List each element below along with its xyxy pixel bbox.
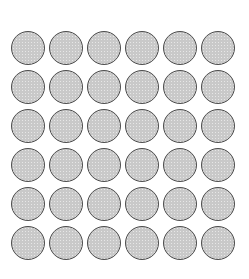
circle-marker — [49, 187, 83, 221]
circle-marker — [49, 226, 83, 260]
circle-marker — [201, 70, 235, 104]
circle-grid — [0, 0, 249, 279]
circle-marker — [125, 148, 159, 182]
circle-marker — [49, 148, 83, 182]
circle-marker — [11, 31, 45, 65]
circle-marker — [87, 148, 121, 182]
circle-marker — [125, 109, 159, 143]
circle-marker — [49, 109, 83, 143]
circle-marker — [87, 31, 121, 65]
circle-marker — [201, 31, 235, 65]
circle-marker — [125, 187, 159, 221]
circle-marker — [163, 187, 197, 221]
circle-marker — [87, 226, 121, 260]
circle-marker — [125, 31, 159, 65]
circle-marker — [163, 109, 197, 143]
circle-marker — [163, 31, 197, 65]
circle-marker — [201, 187, 235, 221]
circle-marker — [125, 226, 159, 260]
circle-marker — [49, 70, 83, 104]
circle-marker — [87, 109, 121, 143]
circle-marker — [11, 70, 45, 104]
circle-marker — [163, 148, 197, 182]
circle-marker — [87, 187, 121, 221]
circle-marker — [201, 109, 235, 143]
circle-marker — [201, 148, 235, 182]
circle-marker — [11, 148, 45, 182]
circle-marker — [11, 187, 45, 221]
circle-marker — [201, 226, 235, 260]
circle-marker — [11, 109, 45, 143]
image-canvas — [0, 0, 249, 279]
circle-marker — [163, 70, 197, 104]
circle-marker — [125, 70, 159, 104]
circle-marker — [11, 226, 45, 260]
circle-marker — [163, 226, 197, 260]
circle-marker — [49, 31, 83, 65]
circle-marker — [87, 70, 121, 104]
